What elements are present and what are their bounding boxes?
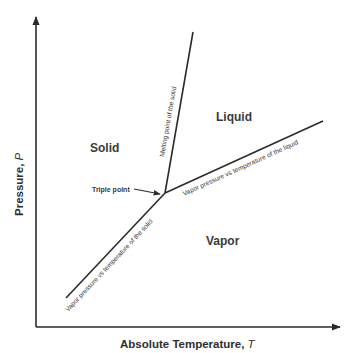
liquid-vapor-curve-label: Vapor pressure vs temperature of the liq… [182, 138, 300, 198]
liquid-vapor-curve [165, 121, 323, 193]
triple-point-label: Triple point [92, 186, 130, 194]
region-solid: Solid [90, 141, 119, 155]
solid-vapor-curve-label: Vapor pressure vs temperature of the sol… [64, 217, 155, 313]
solid-vapor-curve [66, 193, 165, 298]
region-vapor: Vapor [206, 234, 240, 248]
x-axis-label-text: Absolute Temperature, [120, 338, 248, 350]
y-axis-label-text: Pressure, [13, 160, 25, 216]
x-axis-label: Absolute Temperature, T [120, 338, 256, 350]
y-axis-label: Pressure, P [13, 152, 25, 216]
melting-curve-label: Melting point of the solid [158, 86, 178, 158]
y-axis-symbol: P [13, 152, 25, 160]
phase-diagram: Solid Liquid Vapor Melting point of the … [0, 0, 355, 353]
region-liquid: Liquid [216, 110, 252, 124]
x-axis-symbol: T [248, 338, 256, 350]
triple-point-arrow-icon [134, 189, 160, 194]
